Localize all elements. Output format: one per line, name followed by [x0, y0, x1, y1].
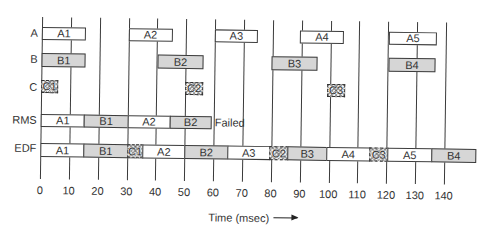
- bar-label: C3: [329, 84, 343, 96]
- tick-label: 20: [82, 185, 112, 198]
- bar-label: A3: [230, 30, 244, 42]
- scheduling-diagram: 0 10 20 30 40 50 60 70 80 90 100 110 120…: [0, 0, 487, 233]
- bar-label: C1: [42, 80, 56, 92]
- tick-label: 130: [400, 189, 430, 202]
- rms-failed-status: Failed: [215, 115, 245, 129]
- bar-label: B1: [99, 145, 113, 157]
- rms-slot-a1: A1: [41, 114, 85, 128]
- bar-label: C1: [128, 145, 142, 157]
- tick-label: 90: [284, 187, 314, 200]
- bar-label: A2: [157, 146, 171, 158]
- bar-label: B3: [288, 57, 302, 69]
- bar-label: A2: [144, 28, 158, 40]
- bar-label: B2: [199, 146, 213, 158]
- row-label-edf: EDF: [0, 140, 36, 155]
- bar-label: A1: [56, 144, 70, 156]
- bar-label: A3: [242, 147, 256, 159]
- task-b-bar: B4: [388, 58, 435, 73]
- task-c-bar: C1: [41, 80, 58, 93]
- task-c-bar: C3: [327, 84, 345, 97]
- edf-slot-a3: A3: [227, 146, 270, 161]
- edf-slot-a2: A2: [142, 144, 185, 159]
- row-label-b: B: [0, 51, 37, 66]
- edf-slot-b1: B1: [83, 144, 127, 159]
- bar-label: A5: [403, 149, 417, 161]
- edf-slot-b3: B3: [287, 146, 327, 161]
- tick-label: 60: [198, 186, 228, 199]
- edf-slot-b4: B4: [431, 148, 476, 163]
- bar-label: B4: [405, 59, 419, 71]
- edf-slot-a5: A5: [387, 148, 432, 163]
- right-arrow-icon: [273, 217, 297, 218]
- bar-label: C2: [187, 82, 201, 94]
- diagram-canvas: 0 10 20 30 40 50 60 70 80 90 100 110 120…: [0, 0, 487, 233]
- row-label-c: C: [0, 79, 37, 94]
- bar-label: A4: [315, 31, 329, 43]
- bar-label: A1: [57, 27, 71, 39]
- bar-label: B2: [184, 116, 198, 128]
- bar-label: A1: [56, 114, 70, 126]
- edf-slot-c1: C1: [127, 144, 144, 158]
- bar-label: C2: [272, 147, 286, 159]
- tick-label: 120: [371, 189, 401, 202]
- task-a-bar: A4: [300, 31, 344, 45]
- edf-slot-c3: C3: [369, 147, 388, 161]
- bar-label: A4: [341, 148, 355, 160]
- edf-slot-c2: C2: [269, 146, 288, 160]
- bar-label: A2: [142, 115, 156, 127]
- bar-label: B1: [57, 54, 71, 66]
- tick-label: 70: [227, 187, 257, 200]
- tick-label: 110: [342, 188, 372, 201]
- row-label-rms: RMS: [0, 112, 37, 127]
- task-a-bar: A2: [128, 28, 172, 42]
- bar-label: A5: [406, 32, 420, 44]
- tick-label: 30: [111, 185, 141, 198]
- tick-label: 140: [429, 189, 459, 202]
- rms-slot-a2: A2: [127, 115, 171, 129]
- tick-label: 0: [25, 184, 55, 197]
- task-a-bar: A1: [42, 27, 86, 41]
- tick-label: 10: [54, 184, 84, 197]
- row-label-a: A: [1, 25, 38, 40]
- rms-slot-b1: B1: [84, 115, 128, 129]
- bar-label: B4: [447, 150, 461, 162]
- edf-slot-b2: B2: [184, 145, 228, 160]
- task-a-bar: A5: [389, 32, 437, 46]
- bar-label: C3: [372, 149, 386, 161]
- x-axis-label: Time (msec): [208, 210, 269, 225]
- tick-label: 40: [140, 185, 170, 198]
- tick-label: 80: [255, 187, 285, 200]
- bar-label: B3: [300, 148, 314, 160]
- tick-label: 50: [169, 186, 199, 199]
- bar-label: B1: [99, 115, 113, 127]
- tick-label: 100: [313, 188, 343, 201]
- rms-slot-b2: B2: [170, 116, 212, 130]
- task-c-bar: C2: [185, 82, 203, 95]
- task-b-bar: B3: [271, 56, 317, 71]
- task-b-bar: B1: [41, 53, 85, 68]
- bar-label: B2: [174, 56, 188, 68]
- task-b-bar: B2: [157, 55, 203, 70]
- task-a-bar: A3: [215, 29, 258, 43]
- edf-slot-a1: A1: [40, 143, 84, 158]
- edf-slot-a4: A4: [326, 147, 370, 162]
